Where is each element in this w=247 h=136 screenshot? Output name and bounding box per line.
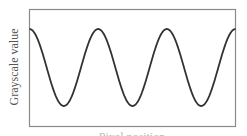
plot-frame	[30, 10, 236, 127]
x-axis-label: Pixel position	[99, 130, 165, 136]
y-axis-label: Grayscale value	[7, 57, 22, 77]
y-axis-label-text: Grayscale value	[7, 29, 22, 106]
line-chart	[0, 0, 247, 136]
grayscale-curve	[30, 29, 236, 106]
